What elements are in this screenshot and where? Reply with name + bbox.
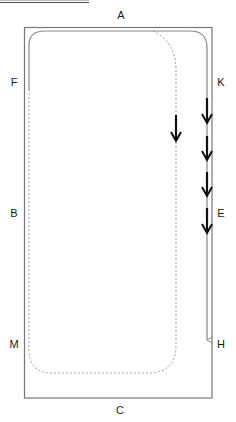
direction-arrow-right-2 [202,136,212,160]
direction-arrow-right-1 [202,98,212,123]
direction-arrow-right-3 [202,172,212,196]
direction-arrow-dashed [171,115,181,141]
dashed-route [29,31,176,373]
label-m: M [9,339,18,350]
label-k: K [217,77,224,88]
label-a: A [117,10,124,21]
track-diagram [0,0,236,422]
label-c: C [116,405,124,416]
label-h: H [217,339,225,350]
outer-frame [25,28,213,399]
direction-arrow-right-4 [202,208,212,233]
label-b: B [10,208,17,219]
solid-route [29,31,207,340]
label-e: E [217,208,224,219]
label-f: F [11,77,18,88]
